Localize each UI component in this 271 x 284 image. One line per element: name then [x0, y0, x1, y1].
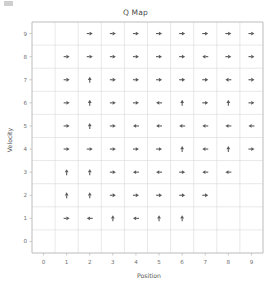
arrow-marker-left	[87, 216, 93, 220]
y-tick-label: 4	[23, 146, 27, 152]
x-tick-label: 2	[88, 259, 92, 265]
arrow-marker-right	[248, 78, 254, 82]
x-tick-label: 3	[111, 259, 115, 265]
arrow-marker-right	[64, 147, 70, 151]
arrow-marker-up	[65, 192, 69, 198]
arrow-marker-right	[156, 147, 162, 151]
y-tick-label: 1	[23, 215, 27, 221]
arrow-marker-left	[202, 124, 208, 128]
arrow-marker-right	[64, 216, 70, 220]
axis-tick-marks	[30, 34, 252, 256]
x-tick-label: 8	[227, 259, 231, 265]
arrow-marker-up	[88, 192, 92, 198]
arrow-marker-right	[179, 55, 185, 59]
arrow-marker-left	[225, 170, 231, 174]
arrow-marker-right	[87, 32, 93, 36]
arrow-marker-right	[156, 78, 162, 82]
arrow-marker-up	[88, 77, 92, 83]
arrow-marker-up	[88, 123, 92, 129]
arrow-marker-up	[180, 100, 184, 106]
arrow-marker-right	[248, 101, 254, 105]
arrow-marker-right	[225, 32, 231, 36]
arrow-marker-right	[202, 101, 208, 105]
arrow-marker-up	[180, 215, 184, 221]
y-tick-label: 5	[23, 123, 27, 129]
arrow-marker-left	[225, 78, 231, 82]
arrow-markers	[64, 32, 255, 222]
arrow-marker-left	[202, 55, 208, 59]
figure-canvas: Q Map 0123456789 0123456789 Position Vel…	[0, 0, 271, 284]
arrow-marker-up	[157, 215, 161, 221]
arrow-marker-right	[87, 147, 93, 151]
x-tick-label: 9	[250, 259, 254, 265]
arrow-marker-left	[248, 124, 254, 128]
x-axis-tick-labels: 0123456789	[42, 259, 254, 265]
y-tick-label: 7	[23, 77, 27, 83]
arrow-marker-up	[88, 169, 92, 175]
arrow-marker-right	[248, 32, 254, 36]
arrow-marker-left	[225, 124, 231, 128]
arrow-marker-up	[226, 146, 230, 152]
arrow-marker-right	[87, 55, 93, 59]
arrow-marker-right	[133, 32, 139, 36]
x-tick-label: 5	[157, 259, 161, 265]
arrow-marker-right	[64, 55, 70, 59]
arrow-marker-right	[133, 101, 139, 105]
arrow-marker-right	[248, 147, 254, 151]
arrow-marker-right	[179, 170, 185, 174]
arrow-marker-up	[65, 169, 69, 175]
arrow-marker-right	[133, 147, 139, 151]
arrow-marker-up	[111, 215, 115, 221]
arrow-marker-right	[156, 193, 162, 197]
arrow-marker-right	[110, 147, 116, 151]
arrow-marker-right	[179, 78, 185, 82]
arrow-marker-up	[180, 146, 184, 152]
arrow-marker-right	[248, 55, 254, 59]
y-tick-label: 6	[23, 100, 27, 106]
arrow-marker-right	[110, 101, 116, 105]
arrow-marker-right	[225, 55, 231, 59]
arrow-marker-right	[64, 78, 70, 82]
arrow-marker-right	[179, 193, 185, 197]
arrow-marker-up	[88, 100, 92, 106]
y-tick-label: 2	[23, 192, 27, 198]
x-axis-label: Position	[137, 272, 161, 279]
y-axis-tick-labels: 0123456789	[23, 31, 27, 245]
arrow-marker-right	[133, 78, 139, 82]
arrow-marker-right	[110, 193, 116, 197]
arrow-marker-left	[156, 124, 162, 128]
arrow-marker-right	[110, 55, 116, 59]
arrow-marker-up	[226, 100, 230, 106]
x-tick-label: 4	[134, 259, 138, 265]
x-tick-label: 6	[180, 259, 184, 265]
arrow-marker-left	[133, 124, 139, 128]
arrow-marker-left	[133, 216, 139, 220]
arrow-marker-left	[156, 170, 162, 174]
arrow-marker-right	[110, 78, 116, 82]
arrow-marker-right	[64, 101, 70, 105]
arrow-marker-right	[64, 124, 70, 128]
x-tick-label: 0	[42, 259, 46, 265]
arrow-marker-right	[202, 78, 208, 82]
y-tick-label: 9	[23, 31, 27, 37]
q-map-plot: 0123456789 0123456789 Position Velocity	[0, 0, 271, 284]
arrow-marker-left	[156, 101, 162, 105]
y-tick-label: 8	[23, 54, 27, 60]
arrow-marker-left	[133, 170, 139, 174]
arrow-marker-left	[202, 147, 208, 151]
arrow-marker-right	[133, 193, 139, 197]
arrow-marker-right	[156, 55, 162, 59]
y-tick-label: 0	[23, 238, 27, 244]
arrow-marker-right	[110, 170, 116, 174]
arrow-marker-left	[202, 170, 208, 174]
arrow-marker-left	[179, 124, 185, 128]
x-tick-label: 1	[65, 259, 69, 265]
arrow-marker-right	[110, 32, 116, 36]
y-axis-label: Velocity	[6, 128, 14, 153]
arrow-marker-right	[202, 193, 208, 197]
arrow-marker-right	[133, 55, 139, 59]
y-tick-label: 3	[23, 169, 27, 175]
x-tick-label: 7	[203, 259, 207, 265]
arrow-marker-right	[202, 32, 208, 36]
arrow-marker-right	[179, 32, 185, 36]
